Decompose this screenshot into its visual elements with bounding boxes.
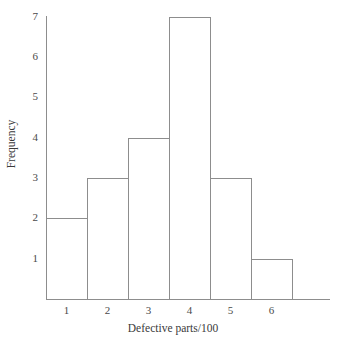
x-tick-label: 5 bbox=[210, 305, 251, 316]
x-tick-label: 3 bbox=[128, 305, 169, 316]
histogram-bar bbox=[87, 178, 129, 299]
x-tick-label: 1 bbox=[46, 305, 87, 316]
x-axis-line bbox=[46, 299, 330, 300]
y-axis-label: Frequency bbox=[5, 99, 17, 189]
histogram-chart: 1234567 123456 Defective parts/100 Frequ… bbox=[0, 0, 346, 346]
histogram-bar bbox=[46, 218, 88, 299]
y-tick-label: 7 bbox=[0, 11, 38, 22]
histogram-bar bbox=[169, 17, 211, 299]
y-tick-label: 1 bbox=[0, 253, 38, 264]
histogram-bar bbox=[128, 138, 170, 299]
histogram-bar bbox=[251, 259, 293, 299]
x-tick-label: 2 bbox=[87, 305, 128, 316]
y-tick-label: 6 bbox=[0, 51, 38, 62]
y-tick-label: 2 bbox=[0, 212, 38, 223]
x-axis-label: Defective parts/100 bbox=[0, 322, 346, 334]
histogram-bar bbox=[210, 178, 252, 299]
x-tick-label: 4 bbox=[169, 305, 210, 316]
x-tick-label: 6 bbox=[251, 305, 292, 316]
